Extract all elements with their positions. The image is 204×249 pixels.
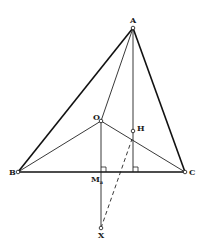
point-a-marker [131, 26, 135, 30]
segment-ao [101, 28, 133, 121]
label-ma: Ma [91, 174, 104, 185]
segment-ob [18, 121, 101, 172]
point-h-marker [131, 129, 135, 133]
geometry-figure: A O H B C Ma X [0, 0, 204, 249]
label-b: B [9, 167, 16, 177]
label-o: O [93, 112, 100, 122]
label-x: X [98, 230, 105, 240]
label-m-subscript: a [100, 179, 104, 185]
label-c: C [189, 167, 195, 177]
point-b-marker [16, 170, 20, 174]
point-c-marker [183, 170, 187, 174]
side-ac [133, 28, 185, 172]
label-m: M [91, 174, 100, 184]
label-h: H [137, 123, 145, 133]
side-ab [18, 28, 133, 172]
label-a: A [129, 15, 137, 25]
dashed-line-xh [101, 139, 132, 228]
